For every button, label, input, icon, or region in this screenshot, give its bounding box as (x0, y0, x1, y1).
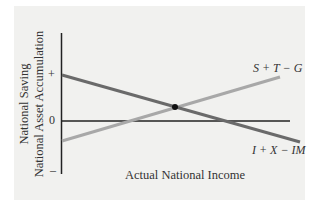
y-tick-plus: + (48, 67, 55, 82)
x-axis-label: Actual National Income (125, 168, 245, 183)
y-tick-minus: – (50, 163, 56, 178)
equilibrium-point (172, 104, 178, 110)
series-label-ixim: I + X − IM (252, 143, 306, 158)
series-label-stg: S + T − G (253, 61, 302, 76)
series-line-stg (62, 77, 280, 141)
y-axis-label-line1: National Saving (17, 24, 32, 184)
y-axis-label-line2: National Asset Accumulation (32, 24, 47, 184)
y-tick-zero: 0 (49, 113, 55, 128)
